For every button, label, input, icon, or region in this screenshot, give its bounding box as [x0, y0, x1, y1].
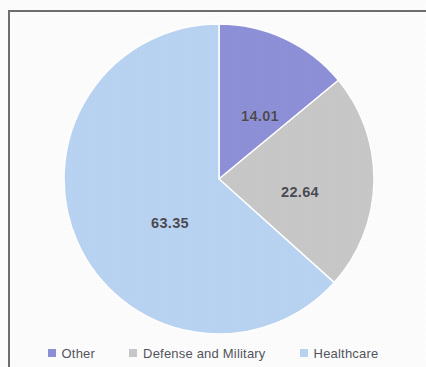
chart-legend: Other Defense and Military Healthcare — [0, 341, 426, 365]
pie-graphic — [63, 23, 375, 335]
legend-item-healthcare[interactable]: Healthcare — [300, 346, 379, 361]
legend-swatch-defense-and-military-icon — [129, 349, 137, 357]
slice-label-other: 14.01 — [241, 108, 279, 124]
legend-item-defense-and-military[interactable]: Defense and Military — [129, 346, 266, 361]
pie-svg — [63, 23, 375, 335]
slice-label-defense-and-military: 22.64 — [281, 184, 319, 200]
legend-label-defense-and-military: Defense and Military — [143, 346, 266, 361]
legend-label-healthcare: Healthcare — [314, 346, 379, 361]
slice-label-healthcare: 63.35 — [151, 215, 189, 231]
pie-chart-figure: 14.01 22.64 63.35 Other Defense and Mili… — [0, 0, 426, 367]
chart-plot-area: 14.01 22.64 63.35 — [10, 12, 426, 367]
legend-swatch-healthcare-icon — [300, 349, 308, 357]
legend-label-other: Other — [62, 346, 96, 361]
legend-item-other[interactable]: Other — [48, 346, 96, 361]
legend-swatch-other-icon — [48, 349, 56, 357]
